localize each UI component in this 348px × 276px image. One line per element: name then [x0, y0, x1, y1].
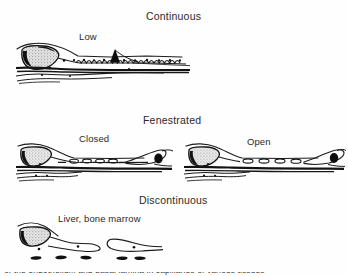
figure-fenestrated-open-capillary	[182, 140, 346, 184]
heading-discontinuous: Discontinuous	[139, 195, 208, 206]
caption-sliver: of the endothelium and basal lamina in c…	[0, 272, 348, 276]
figure-discontinuous-capillary	[14, 219, 164, 265]
figure-page: Continuous Low	[0, 0, 348, 276]
caption-sliver-text: of the endothelium and basal lamina in c…	[4, 272, 265, 275]
heading-continuous: Continuous	[146, 11, 201, 22]
heading-fenestrated: Fenestrated	[143, 115, 201, 126]
figure-fenestrated-closed-capillary	[14, 140, 174, 184]
figure-continuous-capillary	[14, 38, 194, 90]
